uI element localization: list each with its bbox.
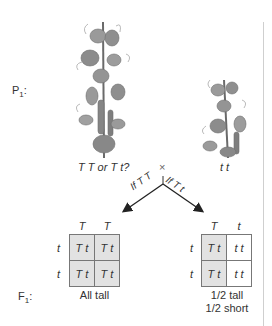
result-line: 1/2 tall	[195, 289, 259, 302]
row-header: t	[190, 268, 193, 280]
arrow-if-TT	[124, 184, 163, 211]
punnett-cell: T t	[202, 235, 226, 260]
row-header: t	[57, 242, 60, 254]
punnett-cell: t t	[227, 261, 251, 286]
result-line: 1/2 short	[195, 302, 259, 315]
punnett-cell: T t	[95, 235, 119, 260]
punnett-square-right: T t t t T t t t	[201, 234, 252, 287]
col-header: T	[95, 220, 119, 232]
punnett-cell: T t	[70, 261, 94, 286]
f1-letter: F	[18, 290, 25, 302]
col-header: t	[227, 220, 251, 232]
punnett-cell: T t	[70, 235, 94, 260]
left-result: All tall	[69, 289, 120, 302]
f1-subscript: 1	[25, 296, 29, 305]
punnett-cell: T t	[202, 261, 226, 286]
f1-label: F1:	[18, 290, 32, 305]
row-header: t	[190, 242, 193, 254]
punnett-cell: T t	[95, 261, 119, 286]
punnett-square-left: T t T t T t T t	[69, 234, 120, 287]
punnett-left-col-headers: T T	[70, 220, 119, 232]
result-line: All tall	[69, 289, 120, 302]
punnett-cell: t t	[227, 235, 251, 260]
row-header: t	[57, 268, 60, 280]
col-header: T	[202, 220, 226, 232]
punnett-right-col-headers: T t	[202, 220, 251, 232]
col-header: T	[70, 220, 94, 232]
right-result: 1/2 tall 1/2 short	[195, 289, 259, 315]
